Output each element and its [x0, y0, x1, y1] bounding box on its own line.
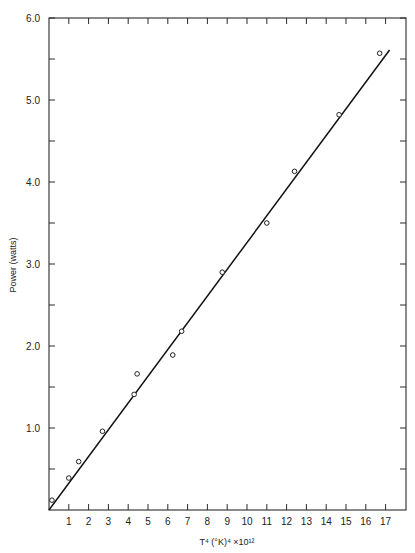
- data-points: [50, 51, 382, 503]
- x-tick-label: 6: [165, 516, 171, 527]
- y-tick-label: 4.0: [26, 177, 40, 188]
- y-axis-title: Power (watts): [8, 237, 18, 292]
- y-tick-label: 6.0: [26, 13, 40, 24]
- data-point-marker: [337, 112, 342, 117]
- y-tick-label: 3.0: [26, 259, 40, 270]
- data-point-marker: [135, 372, 140, 377]
- x-tick-label: 14: [321, 516, 333, 527]
- plot-frame: [49, 18, 406, 510]
- data-point-marker: [220, 270, 225, 275]
- y-tick-label: 1.0: [26, 423, 40, 434]
- data-point-marker: [76, 459, 81, 464]
- x-axis-title: T⁴ (°K)⁴ ×10¹²: [199, 537, 254, 547]
- x-tick-label: 8: [205, 516, 211, 527]
- x-tick-label: 7: [185, 516, 191, 527]
- data-point-marker: [50, 498, 55, 503]
- x-tick-label: 1: [66, 516, 72, 527]
- data-point-marker: [179, 329, 184, 334]
- regression-line: [49, 50, 390, 510]
- axis-ticks: [49, 18, 406, 510]
- x-tick-label: 10: [241, 516, 253, 527]
- axis-tick-labels: 12345678910111213141516171.02.03.04.05.0…: [26, 13, 392, 527]
- data-point-marker: [170, 353, 175, 358]
- plot-border: [49, 18, 406, 510]
- x-tick-label: 2: [86, 516, 92, 527]
- y-tick-label: 5.0: [26, 95, 40, 106]
- data-point-marker: [377, 51, 382, 56]
- x-tick-label: 9: [224, 516, 230, 527]
- x-tick-label: 15: [340, 516, 352, 527]
- data-point-marker: [265, 221, 270, 226]
- fit-line: [49, 50, 390, 510]
- data-point-marker: [292, 169, 297, 174]
- x-tick-label: 17: [380, 516, 392, 527]
- x-tick-label: 13: [301, 516, 313, 527]
- power-vs-t4-chart: 12345678910111213141516171.02.03.04.05.0…: [0, 0, 415, 553]
- y-tick-label: 2.0: [26, 341, 40, 352]
- x-tick-label: 4: [125, 516, 131, 527]
- data-point-marker: [100, 429, 105, 434]
- x-tick-label: 12: [281, 516, 293, 527]
- x-tick-label: 11: [262, 516, 273, 527]
- x-tick-label: 5: [145, 516, 151, 527]
- x-tick-label: 16: [360, 516, 372, 527]
- x-tick-label: 3: [106, 516, 112, 527]
- data-point-marker: [132, 392, 137, 397]
- data-point-marker: [67, 476, 72, 481]
